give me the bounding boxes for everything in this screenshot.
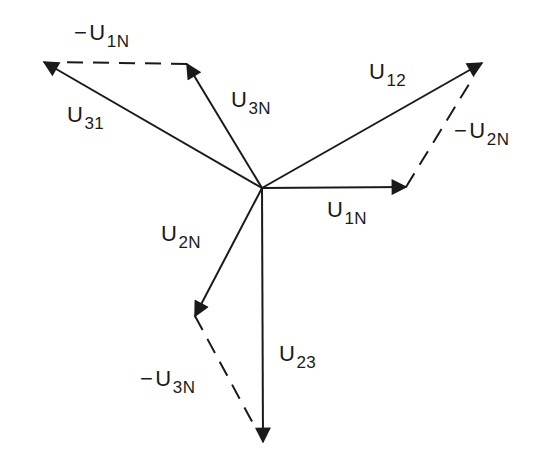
label-main: U: [161, 221, 177, 246]
label-subscript: 1N: [344, 209, 367, 228]
label-neg-u1n: −U1N: [74, 22, 129, 44]
label-u3n: U3N: [231, 89, 271, 111]
phasor-u1n: [262, 187, 406, 188]
phasor-neg-u3n: [195, 316, 256, 429]
phasor-u2n: [195, 188, 262, 316]
label-subscript: 12: [386, 71, 406, 90]
minus-sign: −: [454, 118, 467, 143]
label-main: U: [155, 366, 171, 391]
label-main: U: [469, 118, 485, 143]
phasor-u3n: [187, 64, 262, 188]
label-main: U: [369, 59, 385, 84]
phasor-diagram: [0, 0, 556, 473]
phasor-neg-u1n: [58, 62, 187, 64]
minus-sign: −: [140, 366, 153, 391]
label-main: U: [67, 102, 83, 127]
label-u2n: U2N: [161, 223, 201, 245]
label-u31: U31: [67, 104, 104, 126]
label-subscript: 1N: [107, 32, 130, 51]
label-main: U: [231, 87, 247, 112]
label-subscript: 31: [84, 114, 104, 133]
label-main: U: [279, 341, 295, 366]
label-subscript: 2N: [487, 130, 510, 149]
phasor-u23: [262, 188, 263, 442]
label-subscript: 3N: [173, 378, 196, 397]
label-subscript: 23: [296, 353, 316, 372]
label-neg-u2n: −U2N: [454, 120, 509, 142]
label-u12: U12: [369, 61, 406, 83]
label-main: U: [89, 20, 105, 45]
label-subscript: 2N: [178, 233, 201, 252]
label-subscript: 3N: [248, 99, 271, 118]
label-main: U: [327, 197, 343, 222]
label-u1n: U1N: [327, 199, 367, 221]
label-u23: U23: [279, 343, 316, 365]
minus-sign: −: [74, 20, 87, 45]
label-neg-u3n: −U3N: [140, 368, 195, 390]
